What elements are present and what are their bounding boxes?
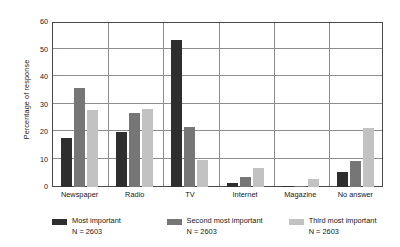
bar (116, 132, 127, 187)
legend-item: Most importantN = 2603 (52, 216, 167, 237)
bar (350, 161, 361, 187)
bar-chart: Percentage of response 0102030405060 New… (0, 0, 400, 247)
bar (129, 113, 140, 187)
bar (295, 186, 306, 187)
x-axis-tick-label: No answer (328, 190, 383, 199)
bar-group (218, 22, 273, 187)
legend-label: Second most important (187, 216, 263, 227)
legend-swatch (52, 219, 67, 225)
bar (337, 172, 348, 187)
bar (308, 179, 319, 187)
x-axis-tick-label: Internet (218, 190, 273, 199)
bar-group (273, 22, 328, 187)
x-axis-tick-label: Newspaper (52, 190, 107, 199)
bar (363, 128, 374, 187)
bar (227, 183, 238, 187)
legend-sample-size: N = 2603 (309, 227, 377, 238)
legend-swatch (167, 219, 182, 225)
y-axis-tick-label: 0 (28, 183, 48, 190)
y-axis-tick-label: 10 (28, 156, 48, 163)
bar (171, 40, 182, 187)
x-axis-tick-label: Radio (107, 190, 162, 199)
bars-layer (52, 22, 383, 187)
legend: Most importantN = 2603Second most import… (52, 216, 392, 237)
legend-item: Second most importantN = 2603 (167, 216, 289, 237)
bar-group (162, 22, 217, 187)
y-axis-tick-label: 50 (28, 46, 48, 53)
bar-group (52, 22, 107, 187)
y-axis-tick-label: 40 (28, 73, 48, 80)
bar (184, 127, 195, 188)
bar (240, 177, 251, 187)
bar (253, 168, 264, 187)
bar (87, 110, 98, 187)
legend-label: Most important (72, 216, 121, 227)
bar (282, 186, 293, 187)
bar-group (107, 22, 162, 187)
bar (74, 88, 85, 187)
bar (197, 160, 208, 188)
bar (61, 138, 72, 188)
y-axis-tick-label: 60 (28, 18, 48, 25)
y-axis-tick-label: 20 (28, 128, 48, 135)
legend-item: Third most importantN = 2603 (289, 216, 392, 237)
y-axis-tick-label: 30 (28, 101, 48, 108)
legend-sample-size: N = 2603 (187, 227, 263, 238)
bar (142, 109, 153, 187)
x-axis-tick-label: Magazine (273, 190, 328, 199)
legend-label: Third most important (309, 216, 377, 227)
x-axis-tick-label: TV (162, 190, 217, 199)
bar-group (328, 22, 383, 187)
legend-sample-size: N = 2603 (72, 227, 121, 238)
legend-swatch (289, 219, 304, 225)
